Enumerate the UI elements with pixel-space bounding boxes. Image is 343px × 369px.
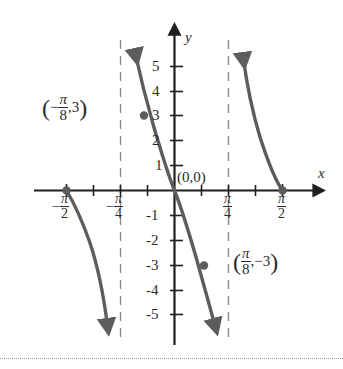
point-label-right: (π8, −3) — [233, 246, 278, 278]
origin-label: (0,0) — [177, 170, 206, 185]
x-tick-label-pi-over-2: π2 — [277, 192, 286, 222]
denominator: 4 — [114, 207, 123, 221]
math-graph-figure: 5 4 3 2 1 -1 -2 -3 -4 -5 y x (0,0) −π2 −… — [0, 0, 343, 369]
point-marker-pi-over-8 — [200, 261, 208, 269]
y-tick-label-neg-1: -1 — [146, 208, 159, 223]
x-tick-label-neg-pi-over-4: −π4 — [106, 192, 123, 222]
minus-sign: − — [50, 100, 58, 115]
x-tick-label-pi-over-4: π4 — [223, 192, 232, 222]
numerator: π — [114, 192, 123, 207]
bottom-divider — [0, 358, 343, 359]
numerator: π — [60, 192, 69, 207]
minus-sign: − — [52, 199, 60, 215]
graph-canvas — [0, 0, 343, 369]
x-axis-label: x — [318, 166, 325, 181]
denominator: 2 — [60, 207, 69, 221]
open-paren: ( — [42, 95, 50, 121]
y-tick-label-4: 4 — [152, 84, 160, 99]
point-marker-neg-pi-over-8 — [140, 111, 148, 119]
y-tick-label-neg-2: -2 — [146, 233, 159, 248]
y-tick-label-5: 5 — [152, 59, 160, 74]
open-paren: ( — [233, 249, 241, 275]
denominator: 8 — [241, 262, 251, 277]
numerator: π — [241, 246, 251, 262]
x-tick-label-neg-pi-over-2: −π2 — [52, 192, 69, 222]
denominator: 2 — [277, 207, 286, 221]
denominator: 8 — [58, 108, 68, 123]
y-tick-label-neg-4: -4 — [146, 283, 159, 298]
y-tick-label-3: 3 — [152, 108, 160, 123]
numerator: π — [223, 192, 232, 207]
curve-right-branch — [243, 56, 283, 191]
y-tick-label-1: 1 — [155, 158, 163, 173]
y-axis-label: y — [185, 30, 192, 45]
y-value: −3 — [254, 254, 270, 269]
close-paren: ) — [270, 249, 278, 275]
point-label-left: (−π8, 3) — [42, 92, 87, 124]
close-paren: ) — [79, 95, 87, 121]
y-tick-label-neg-3: -3 — [146, 258, 159, 273]
numerator: π — [58, 92, 68, 108]
denominator: 4 — [223, 207, 232, 221]
y-tick-label-2: 2 — [152, 133, 160, 148]
curve-left-branch — [67, 191, 108, 323]
numerator: π — [277, 192, 286, 207]
y-tick-label-neg-5: -5 — [146, 307, 159, 322]
minus-sign: − — [106, 199, 114, 215]
